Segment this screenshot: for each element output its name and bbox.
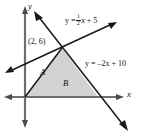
equation-1-variable: x [81, 16, 85, 25]
y-axis-arrow-down [22, 120, 28, 128]
shaded-region-triangle [25, 48, 98, 97]
equation-1-prefix: y = [65, 16, 76, 25]
region-label-b: B [63, 79, 68, 88]
y-axis-label: y [28, 2, 32, 11]
x-axis-label: x [127, 90, 131, 99]
x-axis-arrow-left [4, 94, 12, 100]
equation-1-suffix: + 5 [87, 16, 98, 25]
intersection-point-label: (2, 6) [28, 38, 45, 46]
region-label-a: A [40, 68, 45, 77]
equation-label-neg2x-plus-10: y = –2x + 10 [85, 60, 126, 68]
equation-label-half-x-plus-5: y =12x + 5 [65, 14, 97, 27]
line-half-x-plus-5-arrow-right [108, 22, 117, 29]
x-axis-arrow-right [116, 94, 124, 100]
line-half-x-plus-5-arrow-left [5, 66, 14, 73]
figure-linear-system: y x (2, 6) y =12x + 5 y = –2x + 10 A B [0, 0, 143, 132]
